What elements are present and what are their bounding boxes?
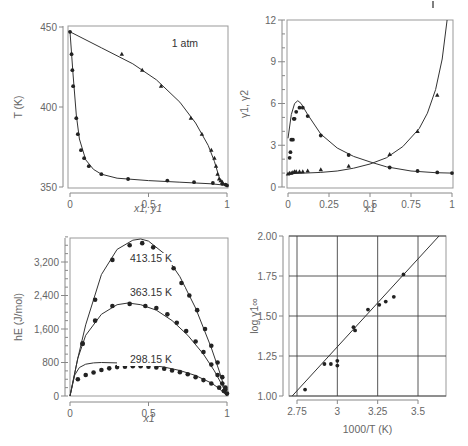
data-point — [93, 297, 98, 302]
data-point — [450, 171, 454, 175]
data-point — [377, 303, 381, 307]
data-point — [291, 138, 295, 142]
data-point — [162, 366, 167, 371]
data-point — [93, 318, 98, 323]
data-point — [82, 156, 86, 160]
data-point — [91, 370, 96, 375]
data-point — [70, 68, 74, 72]
data-point — [154, 306, 159, 311]
data-point — [402, 273, 406, 277]
x-axis-label: x1 — [142, 412, 154, 424]
data-point — [195, 308, 200, 313]
data-point-triangle — [120, 52, 124, 56]
data-point — [323, 362, 327, 366]
data-point — [220, 375, 225, 380]
data-point — [293, 117, 297, 121]
y-tick-label: 3 — [270, 140, 276, 151]
data-point-triangle — [214, 164, 218, 168]
x-axis-label: 1000/T (K) — [343, 423, 392, 435]
data-point — [71, 84, 75, 88]
data-point — [201, 350, 206, 355]
fit-curve — [70, 32, 227, 186]
data-point-triangle — [415, 129, 419, 133]
x-tick-label: 0 — [67, 199, 73, 210]
x-tick-label: 0.75 — [401, 199, 421, 210]
txy-plot: 35040045000.51x1, y1T (K)1 atm — [12, 22, 230, 215]
data-point — [174, 320, 179, 325]
data-point — [76, 377, 81, 382]
data-point — [110, 258, 115, 263]
y-tick-label: 3,200 — [34, 257, 59, 268]
fit-curve — [288, 20, 447, 174]
data-point — [306, 114, 310, 118]
data-point — [70, 52, 74, 56]
x-axis-label: x1, y1 — [133, 202, 162, 214]
data-point — [335, 359, 339, 363]
plot-frame — [68, 26, 228, 188]
y-tick-label: 9 — [270, 56, 276, 67]
data-point — [100, 172, 104, 176]
data-point — [126, 177, 130, 181]
gamma-plot: 03691200.250.50.751x1γ1, γ2 — [238, 15, 455, 215]
data-point — [193, 375, 198, 380]
data-point — [335, 364, 339, 368]
data-point — [107, 366, 112, 371]
x-tick-label: 3.25 — [368, 406, 388, 417]
data-point — [329, 362, 333, 366]
data-point — [99, 368, 104, 373]
x-tick-label: 1 — [224, 408, 230, 419]
data-point — [225, 184, 229, 188]
y-tick-label: 2,400 — [34, 290, 59, 301]
data-point — [179, 281, 184, 286]
data-point — [127, 302, 132, 307]
data-point — [170, 368, 175, 373]
data-point — [209, 362, 214, 367]
data-point — [303, 388, 307, 392]
data-point — [74, 116, 78, 120]
x-tick-label: 0 — [285, 199, 291, 210]
data-point — [209, 343, 214, 348]
data-point — [215, 373, 220, 378]
data-point-triangle — [189, 116, 193, 120]
x-tick-label: 1 — [224, 199, 230, 210]
temperature-annotation: 363.15 K — [130, 286, 172, 298]
data-point — [353, 329, 357, 333]
y-tick-label: 1,600 — [34, 324, 59, 335]
pressure-annotation: 1 atm — [172, 37, 199, 49]
data-point — [185, 372, 190, 377]
x-tick-label: 3.5 — [411, 406, 425, 417]
data-point-triangle — [140, 68, 144, 72]
data-point — [220, 381, 225, 386]
data-point — [87, 164, 91, 168]
data-point — [80, 341, 85, 346]
y-tick-label: 2.00 — [258, 231, 278, 242]
data-point — [366, 308, 370, 312]
data-point — [225, 391, 230, 396]
data-point — [192, 180, 196, 184]
data-point — [298, 106, 302, 110]
y-tick-label: 450 — [40, 22, 57, 33]
y-tick-label: 6 — [270, 98, 276, 109]
fit-curve — [288, 101, 452, 173]
y-axis-label: hE (J/mol) — [12, 293, 24, 341]
y-tick-label: 400 — [40, 102, 57, 113]
x-tick-label: 0 — [67, 408, 73, 419]
data-point — [392, 295, 396, 299]
x-tick-label: 0.25 — [319, 199, 339, 210]
data-point — [187, 293, 192, 298]
data-point — [184, 329, 189, 334]
data-point — [140, 241, 145, 246]
y-tick-label: 0 — [53, 391, 59, 402]
data-point — [203, 327, 208, 332]
data-point — [165, 312, 170, 317]
data-point — [193, 339, 198, 344]
y-axis-label: γ1, γ2 — [238, 90, 250, 118]
y-tick-label: 12 — [265, 15, 277, 26]
x-axis-label: x1 — [363, 202, 375, 214]
data-point-triangle — [387, 152, 391, 156]
y-tick-label: 350 — [40, 182, 57, 193]
data-point-triangle — [215, 172, 219, 176]
data-point — [215, 360, 220, 365]
he-plot: 08001,6002,4003,20000.51x1hE (J/mol)413.… — [12, 237, 230, 424]
y-tick-label: 1.25 — [258, 351, 278, 362]
